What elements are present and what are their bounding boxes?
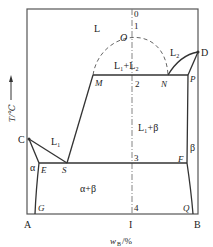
x-axis-label-w: w (110, 236, 116, 246)
solidus-D-P (188, 52, 198, 75)
region-L2: L₂ (170, 47, 180, 58)
label-Q: Q (183, 203, 190, 213)
label-F: F (177, 154, 184, 164)
label-D: D (201, 47, 208, 58)
path-point-4: 4 (134, 203, 139, 213)
component-A: A (24, 219, 32, 230)
liquidus-M-S (67, 75, 93, 163)
path-point-1: 1 (134, 21, 139, 31)
region-alpha: α (30, 162, 36, 173)
x-axis-label-sub: B (117, 241, 121, 247)
label-G: G (38, 203, 45, 213)
label-O: O (120, 32, 127, 43)
region-alpha-beta: α+β (80, 183, 96, 194)
y-axis-label: T/℃ (7, 103, 17, 122)
composition-marker-I: I (129, 219, 132, 230)
diagram-frame (27, 9, 198, 214)
path-point-0: 0 (134, 9, 139, 19)
phase-diagram: C D M N O P E S F G Q 0 1 2 3 4 L L₁+L₂ … (0, 0, 213, 247)
label-E: E (40, 165, 47, 175)
region-L1-L2: L₁+L₂ (114, 60, 139, 71)
label-P: P (189, 74, 196, 84)
label-S: S (62, 165, 67, 175)
label-N: N (160, 79, 168, 89)
region-beta: β (190, 142, 195, 153)
region-L1-beta: L₁+β (138, 122, 158, 133)
point-C-dot (28, 138, 31, 141)
component-B: B (194, 219, 201, 230)
point-D-dot (197, 51, 200, 54)
label-M: M (94, 78, 103, 88)
region-L: L (94, 23, 100, 34)
label-C: C (18, 134, 25, 145)
y-axis-arrow-icon (9, 75, 13, 100)
path-point-3: 3 (134, 153, 139, 163)
x-axis-label-unit: /% (122, 236, 133, 246)
region-L1: L₁ (51, 136, 61, 147)
path-point-2: 2 (135, 79, 140, 89)
